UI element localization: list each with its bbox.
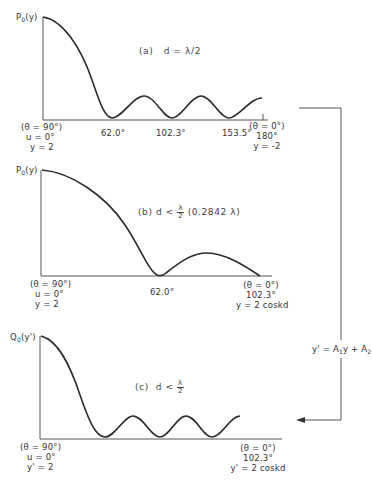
panel-c-title: (c) d < λ2	[135, 380, 184, 395]
lambda-over-2-fraction: λ2	[177, 205, 184, 220]
panel-b-axes	[41, 170, 272, 276]
panel-a-axes	[43, 17, 268, 120]
figure-graphics	[0, 0, 372, 489]
panel-b-title: (b) d < λ2 (0.2842 λ)	[138, 205, 240, 220]
panel-a-y-axis-label: P0(y)	[16, 12, 38, 25]
panel-a-curve	[43, 17, 262, 118]
panel-a-left-end-label: (θ = 90°) u = 0° y = 2	[21, 122, 62, 152]
panel-b-tick-62: 62.0°	[150, 287, 174, 297]
arrow-left-icon	[296, 417, 305, 423]
panel-a-tick-62: 62.0°	[101, 128, 125, 138]
figure: P0(y) (a) d = λ/2 (θ = 90°) u = 0° y = 2…	[0, 0, 372, 489]
panel-b-left-end-label: (θ = 90°) u = 0° y = 2	[30, 279, 71, 309]
panel-a-right-end-label: (θ = 0°) 180° y = -2	[247, 121, 287, 151]
transform-equation: y' = A1y + A2	[312, 344, 371, 357]
panel-a-title: (a) d = λ/2	[139, 46, 201, 56]
transform-bracket	[299, 108, 341, 420]
panel-b-y-axis-label: P0(y)	[16, 165, 38, 178]
panel-b-right-end-label: (θ = 0°) 102.3° y = 2 coskd	[236, 280, 286, 310]
panel-c-right-end-label: (θ = 0°) 102.3° y' = 2 coskd	[230, 443, 286, 473]
panel-a-tick-102: 102.3°	[156, 128, 186, 138]
lambda-over-2-fraction: λ2	[177, 380, 184, 395]
panel-c-left-end-label: (θ = 90°) u = 0° y' = 2	[20, 442, 61, 472]
panel-c-y-axis-label: Q0(y')	[10, 332, 36, 345]
panel-b-curve	[42, 170, 260, 276]
